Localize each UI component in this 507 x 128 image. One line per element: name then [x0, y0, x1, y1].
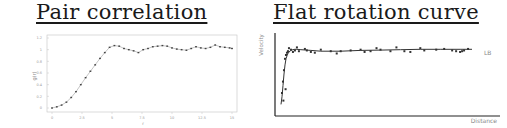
y-tick-label: 0.6 — [36, 71, 42, 75]
data-point — [294, 49, 296, 51]
data-point — [133, 50, 135, 51]
data-point — [51, 107, 53, 108]
charts-canvas: 00.20.40.60.811.2 02.557.51012.515 g(r) … — [0, 0, 507, 128]
data-point — [284, 58, 286, 60]
x-tick-label: 7.5 — [139, 116, 145, 120]
series-line — [52, 45, 232, 108]
data-point — [360, 49, 362, 51]
x-tick-label: 15 — [230, 116, 234, 120]
x-tick-label: 0 — [51, 116, 53, 120]
data-point — [350, 49, 352, 51]
data-point — [296, 46, 298, 48]
data-point — [99, 58, 101, 59]
data-point — [162, 45, 164, 46]
data-point — [200, 47, 202, 48]
data-point — [152, 46, 154, 47]
data-point — [455, 50, 457, 52]
x-axis-label: r — [142, 121, 144, 126]
data-point — [109, 47, 111, 48]
data-point — [229, 47, 231, 48]
data-point — [306, 49, 308, 51]
data-point — [461, 50, 463, 52]
data-point — [336, 52, 338, 54]
data-point — [403, 50, 405, 52]
y-tick-label: 1.2 — [36, 36, 42, 40]
data-point — [285, 54, 287, 56]
data-point — [195, 46, 197, 47]
data-point — [370, 50, 372, 52]
data-point — [435, 49, 437, 51]
data-point — [443, 48, 445, 50]
y-axis-label: Velocity — [258, 33, 265, 55]
data-point — [320, 49, 322, 51]
data-point — [176, 48, 178, 49]
y-tick-label: 1 — [40, 48, 42, 52]
data-point — [157, 45, 159, 46]
x-tick-label: 12.5 — [198, 116, 206, 120]
data-point — [166, 45, 168, 46]
data-point — [376, 47, 378, 49]
data-point — [114, 45, 116, 46]
data-point — [147, 48, 149, 49]
data-point — [61, 104, 63, 105]
data-point — [451, 49, 453, 51]
data-point — [298, 50, 300, 52]
data-point — [467, 48, 469, 50]
data-point — [463, 49, 465, 51]
x-tick-label: 5 — [111, 116, 113, 120]
y-axis-label: g(r) — [31, 71, 38, 80]
data-point — [75, 91, 77, 92]
data-point — [423, 49, 425, 51]
data-point — [290, 49, 292, 51]
data-point — [282, 100, 284, 102]
y-tick-label: 0.4 — [36, 83, 42, 87]
data-point — [205, 48, 207, 49]
x-axis-label: Distance — [471, 117, 498, 124]
data-point — [171, 47, 173, 48]
data-point — [330, 50, 332, 52]
x-tick-label: 10 — [170, 116, 174, 120]
data-point — [186, 50, 188, 51]
data-point — [310, 51, 312, 53]
data-point — [138, 52, 140, 53]
data-point — [104, 52, 106, 53]
data-point — [380, 49, 382, 51]
data-point — [281, 92, 283, 94]
data-point — [292, 51, 294, 53]
data-point — [287, 50, 289, 52]
data-point — [231, 48, 233, 49]
fitted-curve — [281, 49, 472, 104]
data-point — [364, 51, 366, 53]
data-point — [419, 47, 421, 49]
y-tick-label: 0.2 — [36, 95, 42, 99]
y-tick-label: 0.8 — [36, 60, 42, 64]
data-point — [80, 84, 82, 85]
data-point — [56, 106, 58, 107]
data-point — [409, 51, 411, 53]
data-point — [395, 46, 397, 48]
data-point — [85, 77, 87, 78]
data-point — [282, 81, 284, 83]
data-point — [142, 49, 144, 50]
y-tick-label: 0 — [40, 106, 42, 110]
data-point — [90, 71, 92, 72]
data-point — [118, 45, 120, 46]
data-point — [66, 101, 68, 102]
data-point — [128, 49, 130, 50]
data-point — [219, 46, 221, 47]
curve-annotation: LB — [484, 49, 491, 56]
data-point — [210, 47, 212, 48]
data-point — [94, 64, 96, 65]
data-point — [70, 97, 72, 98]
pair-correlation-chart: 00.20.40.60.811.2 02.557.51012.515 g(r) … — [31, 35, 237, 126]
data-point — [459, 51, 461, 53]
x-tick-label: 2.5 — [79, 116, 85, 120]
data-point — [285, 88, 287, 90]
data-point — [389, 50, 391, 52]
data-point — [224, 47, 226, 48]
data-point — [123, 48, 125, 49]
data-point — [314, 52, 316, 54]
data-point — [214, 44, 216, 45]
data-point — [288, 47, 290, 49]
data-point — [340, 50, 342, 52]
